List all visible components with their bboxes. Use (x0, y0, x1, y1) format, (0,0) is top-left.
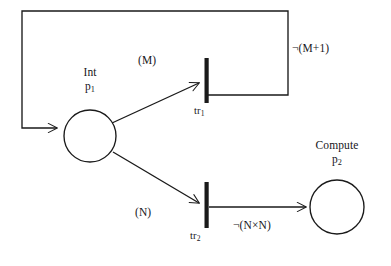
transition-tr2-label: tr2 (190, 230, 200, 243)
place-p2-id: p2 (300, 153, 374, 168)
arc-label-n-times-n: ¬(N×N) (233, 219, 271, 231)
place-p1-name: Int (58, 66, 122, 78)
place-p2-label-group: Compute p2 (300, 139, 374, 168)
place-p1-label-group: Int p1 (58, 66, 122, 95)
transition-tr1-label-subscript: 1 (201, 109, 205, 118)
transition-tr1 (205, 58, 209, 103)
arc-label-m-plus-one: ¬(M+1) (292, 42, 329, 54)
place-p2-name: Compute (300, 139, 374, 151)
arc-p1-to-tr2 (113, 152, 199, 203)
petri-net-diagram: Int p1 Compute p2 tr1 tr2 (M) (N) ¬(M+1)… (0, 0, 391, 266)
place-p1-id: p1 (58, 80, 122, 95)
transition-tr2 (205, 182, 209, 228)
transition-tr2-label-base: tr (190, 230, 197, 241)
arc-label-m: (M) (138, 54, 156, 66)
arc-p1-to-tr1 (112, 83, 199, 123)
arc-label-n: (N) (135, 206, 151, 218)
diagram-canvas (0, 0, 391, 266)
place-p2 (310, 180, 364, 234)
transition-tr2-label-subscript: 2 (197, 234, 201, 243)
transition-tr1-label-base: tr (194, 105, 201, 116)
transition-tr1-label: tr1 (194, 105, 204, 118)
place-p2-id-subscript: 2 (338, 158, 342, 167)
place-p1 (64, 110, 116, 162)
place-p1-id-subscript: 1 (91, 85, 95, 94)
